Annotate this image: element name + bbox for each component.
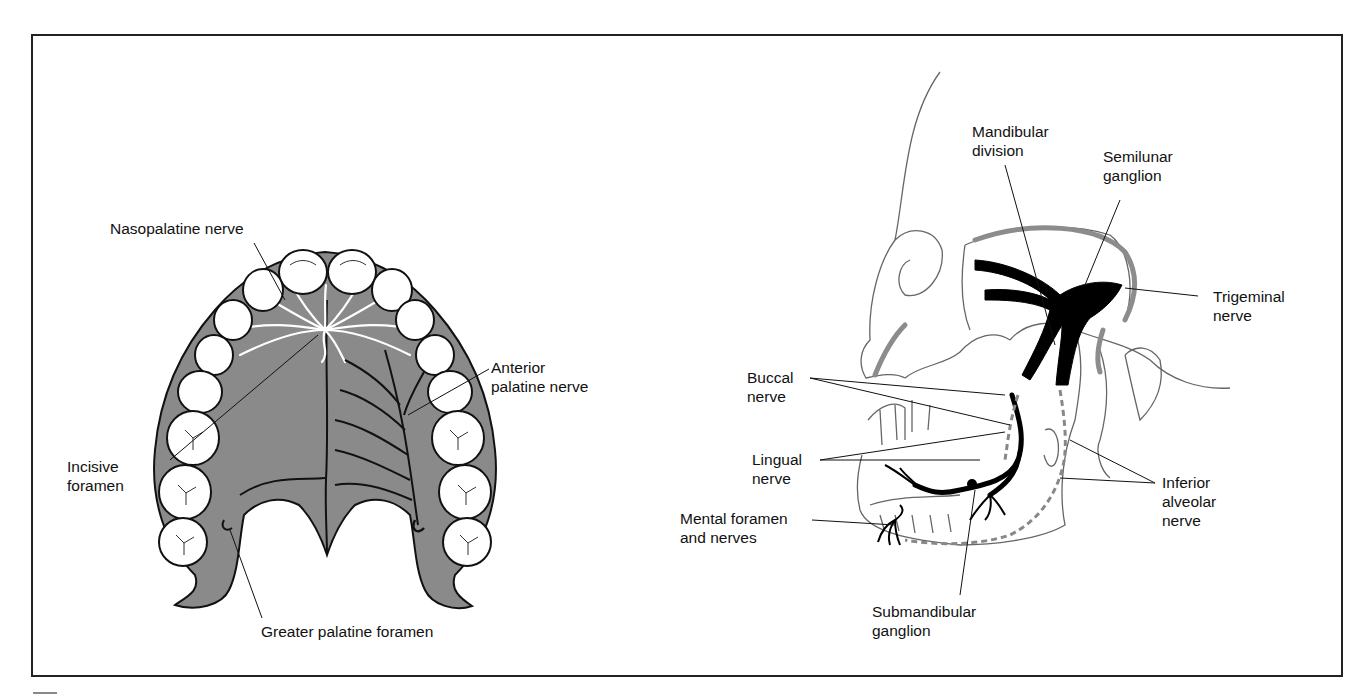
label-buccal-nerve: Buccal nerve: [747, 368, 794, 406]
label-lingual-nerve: Lingual nerve: [752, 450, 802, 488]
lingual-nerve-fine-branches: [878, 465, 1005, 545]
label-mandibular-division: Mandibular division: [972, 122, 1049, 160]
label-incisive-foramen: Incisive foramen: [67, 457, 124, 495]
page-corner-mark: [33, 692, 57, 694]
mandibular-nerve-branches: [915, 395, 1021, 495]
label-trigeminal-nerve: Trigeminal nerve: [1213, 287, 1285, 325]
label-semilunar-ganglion: Semilunar ganglion: [1103, 147, 1173, 185]
label-anterior-palatine-nerve: Anterior palatine nerve: [491, 358, 588, 396]
submandibular-ganglion-dot: [967, 479, 977, 489]
label-inferior-alveolar-nerve: Inferior alveolar nerve: [1162, 473, 1216, 530]
label-greater-palatine-foramen: Greater palatine foramen: [261, 622, 433, 641]
label-nasopalatine-nerve: Nasopalatine nerve: [110, 219, 244, 238]
anatomy-illustration: [0, 0, 1366, 698]
palate-diagram: [154, 243, 496, 618]
label-mental-foramen-nerves: Mental foramen and nerves: [680, 509, 788, 547]
label-submandibular-ganglion: Submandibular ganglion: [872, 602, 976, 640]
